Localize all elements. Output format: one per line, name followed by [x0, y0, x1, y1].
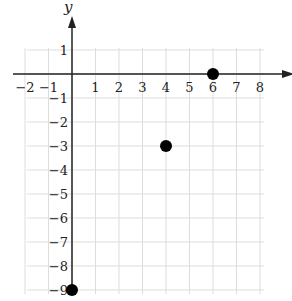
- y-tick-label: 1: [60, 43, 68, 58]
- x-tick-label: 1: [91, 80, 99, 95]
- y-axis-label: y: [63, 0, 73, 16]
- x-tick-label: 8: [256, 80, 264, 95]
- data-point: [160, 140, 172, 152]
- y-tick-label: −5: [49, 187, 68, 202]
- coordinate-plane: xy−2−1123456781−1−2−3−4−5−6−7−8−9: [0, 0, 292, 301]
- y-tick-label: −9: [49, 283, 68, 298]
- data-point: [207, 68, 219, 80]
- y-tick-label: −1: [49, 91, 68, 106]
- y-tick-label: −6: [49, 211, 68, 226]
- x-tick-label: 6: [209, 80, 217, 95]
- x-tick-label: 3: [138, 80, 146, 95]
- y-tick-label: −2: [49, 115, 68, 130]
- x-tick-label: 5: [185, 80, 193, 95]
- x-tick-label: −2: [15, 80, 34, 95]
- x-tick-label: 7: [232, 80, 240, 95]
- x-tick-label: 2: [115, 80, 123, 95]
- y-tick-label: −8: [49, 259, 68, 274]
- y-tick-label: −7: [49, 235, 68, 250]
- y-axis-arrow-icon: [68, 16, 76, 28]
- y-tick-label: −4: [49, 163, 68, 178]
- y-tick-label: −3: [49, 139, 68, 154]
- scatter-plot: xy−2−1123456781−1−2−3−4−5−6−7−8−9: [0, 0, 292, 301]
- data-point: [66, 284, 78, 296]
- x-tick-label: 4: [162, 80, 170, 95]
- x-axis-arrow-icon: [282, 70, 292, 78]
